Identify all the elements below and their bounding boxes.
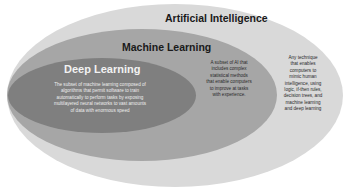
dl-description: The subset of machine learning composed … [38, 82, 162, 114]
ml-description-line: with experience. [198, 92, 260, 98]
dl-description-line: multilayered neural networks to vast amo… [38, 101, 162, 107]
ml-description: A subset of AI that includes complex sta… [198, 60, 260, 98]
ai-description-line: decision trees, and [277, 93, 329, 99]
ai-description: Any technique that enables computers to … [277, 55, 329, 113]
ai-description-line: and deep learning [277, 106, 329, 112]
dl-description-line: of data with enormous speed [38, 108, 162, 114]
dl-title: Deep Learning [64, 63, 134, 75]
ml-description-line: that enable computers [198, 79, 260, 85]
ml-title: Machine Learning [122, 41, 204, 53]
ai-title: Artificial Intelligence [165, 12, 258, 24]
